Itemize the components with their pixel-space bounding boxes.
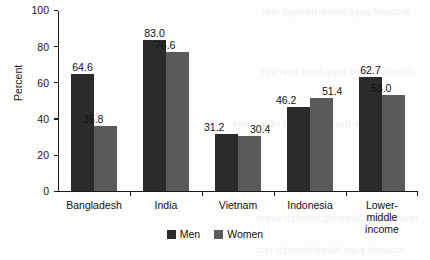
bar-women[interactable]: 53.0 xyxy=(382,95,405,191)
x-tick xyxy=(274,192,275,196)
bar-value-label: 83.0 xyxy=(144,27,164,39)
y-tick-label: 100 xyxy=(31,4,49,16)
legend-label-women: Women xyxy=(227,228,263,240)
bar-men[interactable]: 64.6 xyxy=(71,74,94,191)
bar-value-label: 53.0 xyxy=(371,82,391,94)
x-category-label: India xyxy=(155,199,178,211)
legend-label-men: Men xyxy=(180,228,200,240)
x-category-label: Vietnam xyxy=(219,199,257,211)
bar-pair: 83.0 76.6 xyxy=(143,40,189,190)
bar-group: 31.2 30.4 Vietnam xyxy=(202,10,274,191)
x-tick xyxy=(202,192,203,196)
bar-value-label: 31.2 xyxy=(204,121,224,133)
legend-item-men[interactable]: Men xyxy=(167,228,200,240)
bleed-artifact: scanned page bleed-through text xyxy=(34,244,404,255)
y-axis-label: Percent xyxy=(12,65,24,101)
y-tick-label: 0 xyxy=(43,185,49,197)
bar-group: 64.6 35.8 Bangladesh xyxy=(58,10,130,191)
bar-value-label: 35.8 xyxy=(83,113,103,125)
bleed-artifact: residual ink showing through paper xyxy=(18,212,418,223)
bar-pair: 46.2 51.4 xyxy=(287,98,333,191)
legend: Men Women xyxy=(0,228,430,240)
x-tick xyxy=(346,192,347,196)
bar-group: 46.2 51.4 Indonesia xyxy=(274,10,346,191)
bar-women[interactable]: 76.6 xyxy=(166,52,189,191)
bar-value-label: 30.4 xyxy=(250,123,270,135)
bar-women[interactable]: 51.4 xyxy=(310,98,333,191)
bar-men[interactable]: 62.7 xyxy=(359,77,382,191)
bar-value-label: 76.6 xyxy=(155,39,175,51)
legend-swatch-women-icon xyxy=(214,230,223,239)
y-tick-label: 80 xyxy=(37,41,49,53)
y-tick-label: 60 xyxy=(37,77,49,89)
x-tick xyxy=(130,192,131,196)
y-tick-label: 20 xyxy=(37,149,49,161)
y-tick-label: 40 xyxy=(37,113,49,125)
bar-value-label: 51.4 xyxy=(322,85,342,97)
x-axis-line xyxy=(58,191,418,192)
y-tick-0: 0 xyxy=(54,191,58,192)
legend-swatch-men-icon xyxy=(167,230,176,239)
x-tick xyxy=(417,192,418,196)
bar-pair: 64.6 35.8 xyxy=(71,74,117,191)
bar-chart: scanned page bleed-through text faint re… xyxy=(0,0,430,260)
x-category-label: Bangladesh xyxy=(66,199,121,211)
legend-item-women[interactable]: Women xyxy=(214,228,263,240)
bar-men[interactable]: 31.2 xyxy=(215,134,238,191)
plot-area: 100 80 60 40 20 0 64.6 xyxy=(58,11,418,192)
bar-value-label: 46.2 xyxy=(276,94,296,106)
bar-pair: 31.2 30.4 xyxy=(215,134,261,191)
bar-pair: 62.7 53.0 xyxy=(359,77,405,191)
bar-group: 83.0 76.6 India xyxy=(130,10,202,191)
bar-men[interactable]: 83.0 xyxy=(143,40,166,190)
x-category-label: Indonesia xyxy=(287,199,333,211)
bar-men[interactable]: 46.2 xyxy=(287,107,310,191)
bar-women[interactable]: 35.8 xyxy=(94,126,117,191)
bar-value-label: 62.7 xyxy=(360,64,380,76)
bar-women[interactable]: 30.4 xyxy=(238,136,261,191)
bar-group: 62.7 53.0 Lower-middle income xyxy=(346,10,418,191)
bar-value-label: 64.6 xyxy=(72,61,92,73)
